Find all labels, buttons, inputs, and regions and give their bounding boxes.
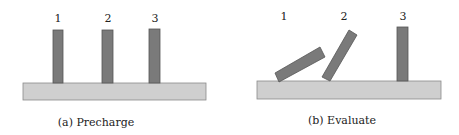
label-2: 2 bbox=[105, 12, 112, 25]
base-platform bbox=[23, 83, 206, 100]
base-platform bbox=[257, 81, 441, 99]
label-3: 3 bbox=[400, 10, 407, 23]
label-1: 1 bbox=[55, 12, 62, 25]
domino-1 bbox=[53, 30, 63, 83]
domino-diagram: 1 2 3 (a) Precharge 1 2 3 (b) Evaluate bbox=[0, 0, 459, 135]
domino-2 bbox=[102, 30, 113, 83]
label-3: 3 bbox=[152, 12, 159, 25]
panel-precharge: 1 2 3 (a) Precharge bbox=[23, 12, 206, 129]
label-2: 2 bbox=[341, 10, 348, 23]
domino-1-fallen bbox=[275, 47, 325, 82]
caption-precharge: (a) Precharge bbox=[58, 116, 134, 129]
panel-evaluate: 1 2 3 (b) Evaluate bbox=[257, 10, 441, 127]
domino-3 bbox=[149, 29, 160, 83]
domino-2-falling bbox=[322, 30, 357, 81]
caption-evaluate: (b) Evaluate bbox=[308, 114, 376, 127]
label-1: 1 bbox=[281, 10, 288, 23]
domino-3 bbox=[397, 27, 408, 81]
